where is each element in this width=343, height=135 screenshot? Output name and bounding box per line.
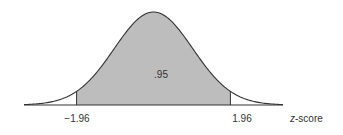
right-tick-label: 1.96	[232, 113, 252, 124]
normal-curve-chart: −1.96 1.96 .95 z-score	[0, 0, 343, 135]
area-label: .95	[154, 69, 168, 80]
x-axis-label: z-score	[289, 113, 323, 124]
left-tick-label: −1.96	[64, 113, 90, 124]
shaded-area-95	[77, 12, 231, 105]
x-axis-label-rest: -score	[295, 113, 323, 124]
